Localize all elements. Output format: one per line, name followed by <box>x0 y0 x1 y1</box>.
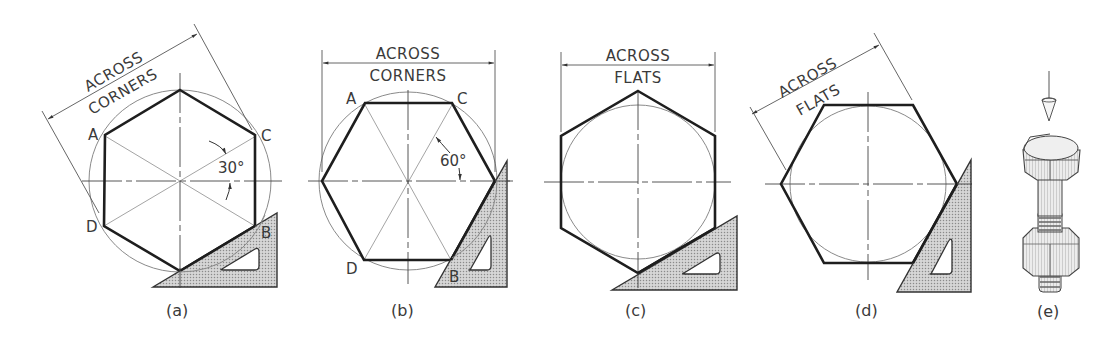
panel-caption: (b) <box>391 301 414 320</box>
angle-arc <box>209 141 226 154</box>
angle-arc <box>436 137 450 153</box>
extension-line <box>750 107 786 170</box>
dimension-text-corners: CORNERS <box>370 67 447 85</box>
panel-caption: (d) <box>855 301 878 320</box>
vertex-label-b: B <box>449 268 459 286</box>
vertex-label-a: A <box>346 90 357 108</box>
vertex-label-a: A <box>88 126 99 144</box>
panel-caption: (c) <box>625 301 646 320</box>
extension-line <box>194 24 252 130</box>
dimension-text-across: ACROSS <box>606 47 671 65</box>
panel-b: ACROSS CORNERS 60° A C D B (b) <box>308 45 513 320</box>
extension-line <box>874 33 912 100</box>
angle-arc <box>226 183 230 200</box>
panel-a: ACROSS CORNERS 30° A C D B (a) <box>42 24 282 320</box>
vertex-label-c: C <box>261 127 271 145</box>
hexagon-construction-figure: ACROSS CORNERS 30° A C D B (a) ACROSS CO… <box>0 0 1112 343</box>
vertex-label-c: C <box>457 90 467 108</box>
dimension-text-flats: FLATS <box>614 69 662 87</box>
view-direction-arrow-icon <box>1042 71 1056 121</box>
angle-label: 60° <box>440 152 467 170</box>
panel-caption: (e) <box>1037 302 1059 321</box>
vertex-label-d: D <box>86 218 98 236</box>
dimension-text-across: ACROSS <box>376 45 441 63</box>
panel-caption: (a) <box>166 301 188 320</box>
angle-label: 30° <box>218 159 245 177</box>
panel-d: ACROSS FLATS (d) <box>750 33 972 320</box>
panel-c: ACROSS FLATS (c) <box>544 47 737 320</box>
bolt-icon <box>1023 134 1080 292</box>
vertex-label-b: B <box>261 224 271 242</box>
vertex-label-d: D <box>346 260 358 278</box>
panel-e: (e) <box>1023 71 1080 321</box>
